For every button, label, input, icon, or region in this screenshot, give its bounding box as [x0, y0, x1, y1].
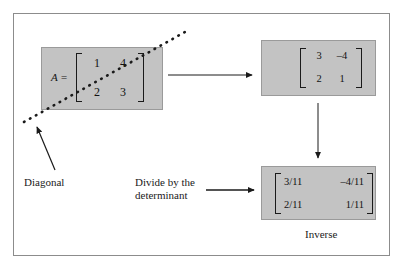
matrix-a-cell-r0c1: 4 — [110, 57, 136, 69]
figure-canvas: A = 1 4 2 3 3 –4 2 1 3/11 –4/11 2/11 1/1… — [0, 0, 410, 271]
matrix-adjugate-cell-r1c0: 2 — [308, 74, 330, 85]
matrix-a-cell-r0c0: 1 — [84, 57, 110, 69]
bracket-right-icon — [356, 48, 362, 88]
matrix-inverse-cell-r0c1: –4/11 — [322, 177, 364, 188]
bracket-right-icon — [138, 53, 144, 102]
matrix-inverse-cell-r1c0: 2/11 — [284, 200, 322, 211]
matrix-inverse-cell-r0c0: 3/11 — [284, 177, 322, 188]
matrix-adjugate-cell-r1c1: 1 — [330, 74, 354, 85]
inverse-annotation: Inverse — [305, 228, 337, 241]
divide-by-determinant-annotation: Divide by the determinant — [135, 176, 195, 201]
bracket-right-icon — [367, 173, 373, 214]
matrix-adjugate-cell-r0c1: –4 — [330, 51, 354, 62]
diagonal-annotation: Diagonal — [24, 176, 64, 189]
matrix-inverse: 3/11 –4/11 2/11 1/11 — [275, 173, 373, 214]
matrix-a-cell-r1c1: 3 — [110, 86, 136, 98]
matrix-inverse-cell-r1c1: 1/11 — [322, 200, 364, 211]
matrix-a-label: A = — [51, 71, 68, 83]
matrix-adjugate: 3 –4 2 1 — [300, 48, 362, 88]
matrix-adjugate-cell-r0c0: 3 — [308, 51, 330, 62]
matrix-a-cell-r1c0: 2 — [84, 86, 110, 98]
matrix-a: 1 4 2 3 — [76, 53, 144, 102]
